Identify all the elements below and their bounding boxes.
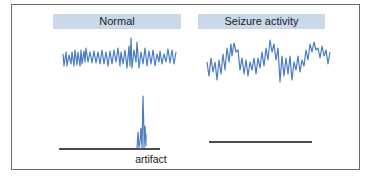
artifact-spike [137,96,146,148]
eeg-traces [0,0,369,183]
seizure-eeg-trace [207,40,330,82]
artifact-label: artifact [126,153,176,165]
normal-eeg-trace [63,38,176,68]
